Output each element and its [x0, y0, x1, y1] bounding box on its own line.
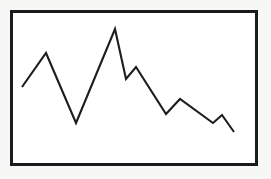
line-chart-figure: [0, 0, 271, 179]
plot-area-frame: [10, 10, 258, 166]
